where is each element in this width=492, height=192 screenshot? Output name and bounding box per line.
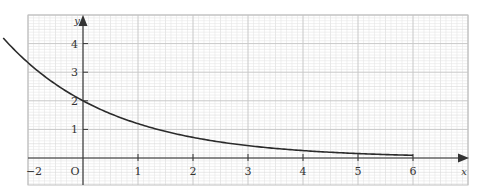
y-tick-label: 4: [71, 38, 78, 51]
y-tick-label: 1: [71, 123, 78, 136]
x-tick-label: 4: [300, 165, 307, 178]
x-tick-label: 3: [245, 165, 252, 178]
ticks: 1234561234: [71, 38, 417, 178]
chart: 1234561234 x y O −2: [0, 0, 492, 192]
left-edge-label: −2: [26, 165, 42, 178]
y-tick-label: 3: [71, 66, 78, 79]
x-tick-label: 1: [135, 165, 142, 178]
x-tick-label: 6: [410, 165, 417, 178]
origin-label: O: [70, 165, 79, 178]
x-tick-label: 5: [355, 165, 362, 178]
x-tick-label: 2: [190, 165, 197, 178]
x-axis-label: x: [461, 166, 467, 177]
